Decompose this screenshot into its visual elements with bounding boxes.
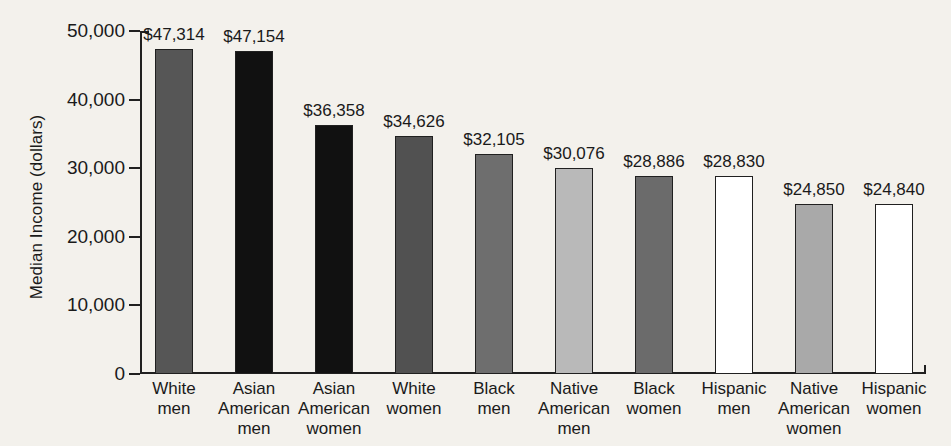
bar [875, 204, 913, 374]
bar [635, 176, 673, 374]
y-tick-label: 40,000 [5, 90, 125, 109]
bar [155, 49, 193, 374]
x-axis-right-cap [924, 365, 926, 374]
y-tick-mark [129, 236, 140, 238]
bar-value-label: $34,626 [359, 113, 469, 130]
bar-chart: Median Income (dollars) 010,00020,00030,… [0, 0, 951, 446]
y-tick-mark [129, 167, 140, 169]
y-tick-mark [129, 99, 140, 101]
y-tick-label: 0 [5, 364, 125, 383]
y-tick-label: 10,000 [5, 295, 125, 314]
y-tick-mark [129, 373, 140, 375]
bar-value-label: $28,830 [679, 153, 789, 170]
y-axis-line [140, 31, 142, 374]
bar [315, 125, 353, 374]
bar-value-label: $24,840 [839, 181, 949, 198]
y-tick-label: 20,000 [5, 227, 125, 246]
bar [395, 136, 433, 374]
bar [235, 51, 273, 374]
plot-area: 010,00020,00030,00040,00050,000 [140, 31, 926, 374]
y-tick-label: 50,000 [5, 21, 125, 40]
bar-value-label: $47,154 [199, 28, 309, 45]
bar [555, 168, 593, 374]
bar [795, 204, 833, 374]
category-label: Hispanic women [842, 379, 946, 419]
y-tick-label: 30,000 [5, 158, 125, 177]
bar [475, 154, 513, 374]
bar [715, 176, 753, 374]
y-tick-mark [129, 304, 140, 306]
